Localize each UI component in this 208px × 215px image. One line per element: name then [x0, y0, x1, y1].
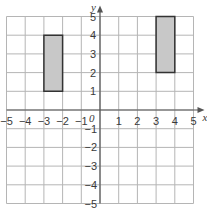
y-tick-label: 4: [90, 29, 96, 41]
y-tick-label: 3: [90, 48, 96, 60]
y-tick-label: −3: [84, 160, 97, 172]
y-tick-label: −2: [84, 141, 97, 153]
x-tick-label: 5: [190, 115, 196, 127]
x-tick-label: 1: [116, 115, 122, 127]
x-tick-label: 4: [172, 115, 178, 127]
x-tick-label: 2: [134, 115, 140, 127]
y-tick-label: 5: [90, 11, 96, 23]
x-axis-label: x: [202, 111, 208, 123]
x-tick-label: −3: [38, 115, 51, 127]
x-tick-label: −4: [19, 115, 32, 127]
y-tick-label: −5: [84, 198, 97, 210]
y-tick-label: −4: [84, 179, 97, 191]
y-tick-label: 2: [90, 67, 96, 79]
y-tick-label: 1: [90, 85, 96, 97]
x-tick-label: −5: [0, 115, 13, 127]
coordinate-grid-diagram: xy0−5−4−3−2−11234512345−1−2−3−4−5: [0, 0, 207, 215]
rectangle-a: [44, 35, 63, 91]
x-tick-label: −2: [56, 115, 69, 127]
y-axis-arrow-icon: [97, 6, 103, 13]
grid-svg: xy0−5−4−3−2−11234512345−1−2−3−4−5: [0, 0, 207, 215]
y-tick-label: −1: [84, 123, 97, 135]
x-tick-label: 3: [153, 115, 159, 127]
rectangle-b: [156, 17, 175, 73]
